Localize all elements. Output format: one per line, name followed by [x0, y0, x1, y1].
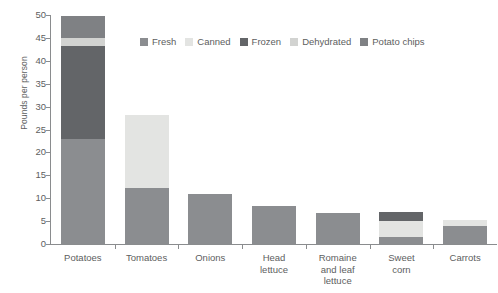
- bar-segment-fresh[interactable]: [316, 213, 360, 244]
- y-axis-tick-label: 45: [35, 32, 46, 44]
- bar-stack: [125, 115, 169, 244]
- x-axis-tick-label: Carrots: [433, 252, 497, 264]
- y-axis: 05101520253035404550: [0, 0, 52, 293]
- bar-group[interactable]: [379, 15, 423, 244]
- legend-swatch-icon: [360, 38, 368, 46]
- x-axis-tick-mark: [115, 245, 116, 249]
- bar-stack: [61, 16, 105, 244]
- x-axis-tick-mark: [178, 245, 179, 249]
- y-axis-tick-label: 30: [35, 101, 46, 113]
- bar-segment-canned[interactable]: [125, 115, 169, 188]
- x-axis-tick-mark: [370, 245, 371, 249]
- bar-group[interactable]: [316, 15, 360, 244]
- x-axis-tick-mark: [306, 245, 307, 249]
- bar-segment-frozen[interactable]: [61, 46, 105, 139]
- y-axis-tick-label: 15: [35, 169, 46, 181]
- bar-segment-fresh[interactable]: [252, 206, 296, 244]
- y-axis-tick-label: 50: [35, 9, 46, 21]
- bar-segment-frozen[interactable]: [379, 212, 423, 221]
- bar-segment-fresh[interactable]: [443, 226, 487, 244]
- bar-segment-fresh[interactable]: [61, 139, 105, 244]
- bar-segment-fresh[interactable]: [188, 194, 232, 244]
- y-axis-tick-label: 25: [35, 124, 46, 136]
- x-axis-tick-label: Sweet corn: [370, 252, 434, 275]
- x-axis-tick-mark: [433, 245, 434, 249]
- x-axis-tick-label: Romaine and leaf lettuce: [306, 252, 370, 287]
- y-axis-tick-label: 35: [35, 78, 46, 90]
- y-axis-tick-label: 20: [35, 146, 46, 158]
- bar-group[interactable]: [188, 15, 232, 244]
- bar-segment-fresh[interactable]: [125, 188, 169, 244]
- bar-stack: [379, 212, 423, 244]
- x-axis-tick-label: Potatoes: [51, 252, 115, 264]
- bar-group[interactable]: [443, 15, 487, 244]
- bar-segment-potato-chips[interactable]: [61, 16, 105, 38]
- bar-segment-canned[interactable]: [379, 221, 423, 237]
- bar-group[interactable]: [252, 15, 296, 244]
- y-axis-tick-label: 40: [35, 55, 46, 67]
- bar-stack: [443, 220, 487, 244]
- x-axis-tick-label: Head lettuce: [242, 252, 306, 275]
- bar-stack: [188, 194, 232, 244]
- x-axis-line: [50, 244, 497, 245]
- y-axis-tick-label: 10: [35, 192, 46, 204]
- bar-segment-fresh[interactable]: [379, 237, 423, 244]
- bar-group[interactable]: [61, 15, 105, 244]
- bar-segment-dehydrated[interactable]: [61, 38, 105, 46]
- bar-stack: [316, 213, 360, 244]
- x-axis-tick-label: Tomatoes: [115, 252, 179, 264]
- bar-group[interactable]: [125, 15, 169, 244]
- x-axis-tick-label: Onions: [178, 252, 242, 264]
- x-axis-tick-mark: [242, 245, 243, 249]
- legend-swatch-icon: [240, 38, 248, 46]
- stacked-bar-chart: Pounds per person 05101520253035404550 F…: [0, 0, 498, 293]
- bar-stack: [252, 206, 296, 244]
